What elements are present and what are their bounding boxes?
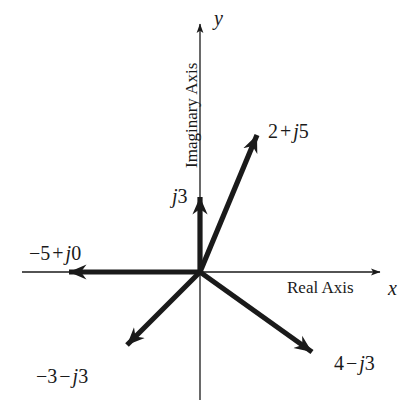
- phasor-imag-part: 3: [178, 185, 188, 207]
- phasor-operator: +: [50, 242, 65, 264]
- phasor-operator: +: [278, 120, 293, 142]
- phasor-real-part: −5: [29, 242, 50, 264]
- complex-plane-phasor-diagram: y x Imaginary Axis Real Axis 2+j5 j3 −5+…: [0, 0, 419, 418]
- phasor-label-minus3-minus-j3: −3−j3: [36, 366, 88, 386]
- phasor-vector-minus3-minus-j3: [127, 272, 200, 345]
- phasor-label-2-plus-j5: 2+j5: [268, 121, 309, 141]
- real-axis-name-label: Real Axis: [287, 279, 354, 296]
- x-axis-variable-label: x: [388, 278, 397, 298]
- imaginary-axis-name-label: Imaginary Axis: [183, 63, 200, 168]
- phasor-real-part: 4: [334, 352, 344, 374]
- phasor-label-minus5-plus-j0: −5+j0: [29, 243, 81, 263]
- phasor-label-4-minus-j3: 4−j3: [334, 353, 375, 373]
- y-axis-variable-label: y: [214, 8, 223, 28]
- phasor-operator: −: [57, 365, 72, 387]
- phasor-vector-2-plus-j5: [200, 135, 257, 272]
- phasor-operator: −: [344, 352, 359, 374]
- phasor-imag-part: 0: [71, 242, 81, 264]
- phasor-real-part: 2: [268, 120, 278, 142]
- phasor-real-part: −3: [36, 365, 57, 387]
- phasor-imag-part: 5: [299, 120, 309, 142]
- phasor-imag-part: 3: [365, 352, 375, 374]
- phasor-label-j3: j3: [172, 186, 188, 206]
- phasor-imag-part: 3: [78, 365, 88, 387]
